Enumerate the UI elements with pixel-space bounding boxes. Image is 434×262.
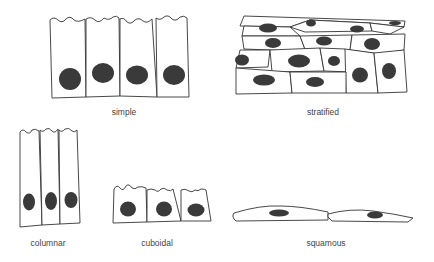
stratified-epithelium — [235, 16, 407, 94]
epithelium-diagram — [0, 0, 434, 262]
label-simple: simple — [84, 107, 164, 117]
label-stratified: stratified — [283, 107, 363, 117]
simple-epithelium — [50, 16, 189, 98]
label-cuboidal: cuboidal — [117, 238, 197, 248]
squamous-epithelium — [233, 206, 413, 222]
columnar-epithelium — [20, 128, 80, 227]
label-columnar: columnar — [8, 238, 88, 248]
label-squamous: squamous — [286, 238, 366, 248]
cuboidal-epithelium — [113, 185, 211, 223]
